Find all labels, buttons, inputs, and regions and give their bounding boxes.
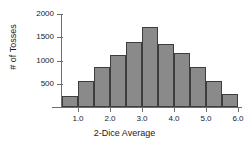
x-tick-mark xyxy=(174,107,175,112)
x-tick-mark xyxy=(238,107,239,112)
histogram-bar xyxy=(110,55,126,107)
plot-area xyxy=(62,14,238,107)
x-tick-mark xyxy=(142,107,143,112)
x-tick-mark xyxy=(206,107,207,112)
bar-series xyxy=(62,14,238,107)
x-tick-label: 3.0 xyxy=(130,115,154,123)
histogram-bar xyxy=(190,67,206,107)
histogram-bar xyxy=(126,42,142,107)
x-axis-title: 2-Dice Average xyxy=(0,128,249,138)
histogram-bar xyxy=(174,53,190,107)
x-tick-mark xyxy=(110,107,111,112)
x-tick-label: 4.0 xyxy=(162,115,186,123)
x-tick-mark xyxy=(78,107,79,112)
histogram-bar xyxy=(142,27,158,107)
histogram-bar xyxy=(78,81,94,107)
x-tick-label: 5.0 xyxy=(194,115,218,123)
x-tick-label: 2.0 xyxy=(98,115,122,123)
histogram-bar xyxy=(62,96,78,107)
histogram-bar xyxy=(222,94,238,107)
y-axis-title: # of Tosses xyxy=(8,12,18,82)
histogram-bar xyxy=(158,44,174,107)
histogram-bar xyxy=(94,67,110,107)
x-axis-line xyxy=(52,107,242,108)
x-tick-label: 6.0 xyxy=(226,115,249,123)
x-tick-label: 1.0 xyxy=(66,115,90,123)
histogram-chart: 500100015002000 1.02.03.04.05.06.0 # of … xyxy=(0,0,249,149)
histogram-bar xyxy=(206,81,222,108)
